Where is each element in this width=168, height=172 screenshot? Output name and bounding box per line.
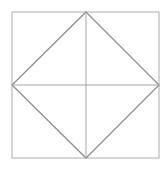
figure-background bbox=[0, 0, 168, 172]
geometric-figure bbox=[0, 0, 168, 172]
